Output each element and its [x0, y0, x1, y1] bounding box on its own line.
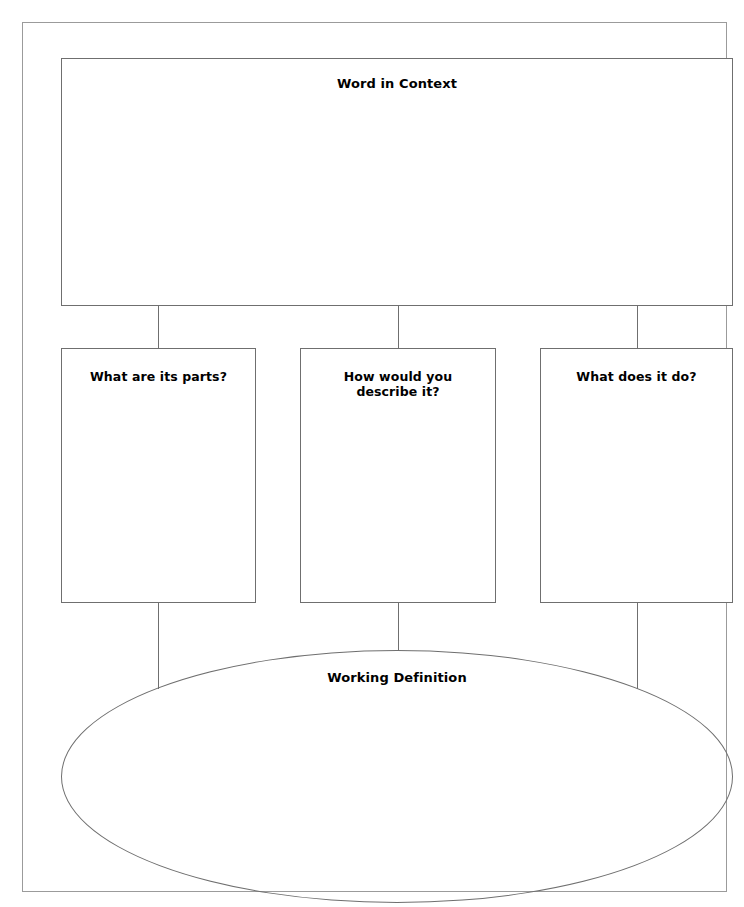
- working-definition-label: Working Definition: [62, 670, 732, 685]
- connector-describe-to-definition: [398, 603, 399, 651]
- connector-top-to-describe: [398, 306, 399, 348]
- word-in-context-box[interactable]: Word in Context: [61, 58, 733, 306]
- worksheet-canvas: Word in Context What are its parts? How …: [0, 0, 744, 907]
- how-would-you-describe-it-label-line1: How would you: [344, 369, 453, 384]
- connector-top-to-parts: [158, 306, 159, 348]
- working-definition-ellipse[interactable]: Working Definition: [61, 650, 733, 903]
- page-frame: Word in Context What are its parts? How …: [22, 22, 727, 892]
- connector-top-to-does: [637, 306, 638, 348]
- what-are-its-parts-box[interactable]: What are its parts?: [61, 348, 256, 603]
- what-are-its-parts-label: What are its parts?: [62, 369, 255, 384]
- how-would-you-describe-it-label-line2: describe it?: [356, 384, 439, 399]
- how-would-you-describe-it-box[interactable]: How would you describe it?: [300, 348, 496, 603]
- how-would-you-describe-it-label: How would you describe it?: [301, 369, 495, 399]
- what-does-it-do-box[interactable]: What does it do?: [540, 348, 733, 603]
- what-does-it-do-label: What does it do?: [541, 369, 732, 384]
- word-in-context-label: Word in Context: [62, 76, 732, 91]
